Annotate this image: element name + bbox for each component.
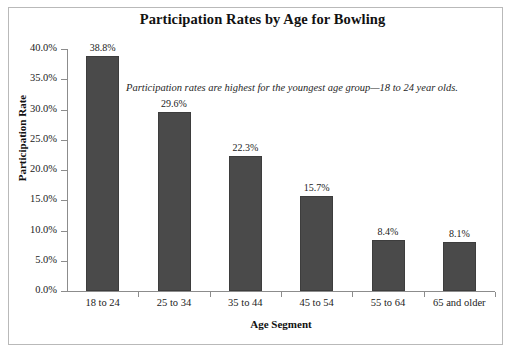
y-axis-tick — [61, 231, 67, 232]
chart-annotation: Participation rates are highest for the … — [126, 82, 496, 93]
y-axis-tick — [61, 110, 67, 111]
y-axis-line — [67, 49, 68, 292]
y-axis-tick-label: 20.0% — [0, 163, 57, 174]
x-axis-tick-label: 65 and older — [414, 297, 504, 308]
y-axis-tick-label: 15.0% — [0, 193, 57, 204]
y-axis-tick — [61, 200, 67, 201]
y-axis-tick — [61, 79, 67, 80]
y-axis-tick-label: 10.0% — [0, 224, 57, 235]
bar-value-label: 15.7% — [287, 182, 347, 193]
y-axis-tick-label: 30.0% — [0, 103, 57, 114]
y-axis-tick — [61, 291, 67, 292]
y-axis-tick-label: 0.0% — [0, 284, 57, 295]
y-axis-tick-label: 25.0% — [0, 133, 57, 144]
bar-value-label: 29.6% — [144, 98, 204, 109]
bar — [372, 240, 405, 291]
y-axis-tick — [61, 49, 67, 50]
chart-page: Participation Rates by Age for Bowling P… — [0, 0, 514, 351]
y-axis-tick — [61, 170, 67, 171]
chart-title: Participation Rates by Age for Bowling — [40, 11, 485, 28]
y-axis-tick-label: 40.0% — [0, 42, 57, 53]
bar-value-label: 38.8% — [73, 42, 133, 53]
bar — [229, 156, 262, 291]
y-axis-tick-label: 5.0% — [0, 254, 57, 265]
bar — [300, 196, 333, 291]
bar-value-label: 8.4% — [358, 226, 418, 237]
bar — [443, 242, 476, 291]
bar — [158, 112, 191, 291]
y-axis-tick — [61, 140, 67, 141]
bar — [86, 56, 119, 291]
y-axis-tick-label: 35.0% — [0, 72, 57, 83]
x-axis-title: Age Segment — [67, 318, 495, 330]
bar-value-label: 8.1% — [429, 228, 489, 239]
bar-value-label: 22.3% — [215, 142, 275, 153]
y-axis-tick — [61, 261, 67, 262]
